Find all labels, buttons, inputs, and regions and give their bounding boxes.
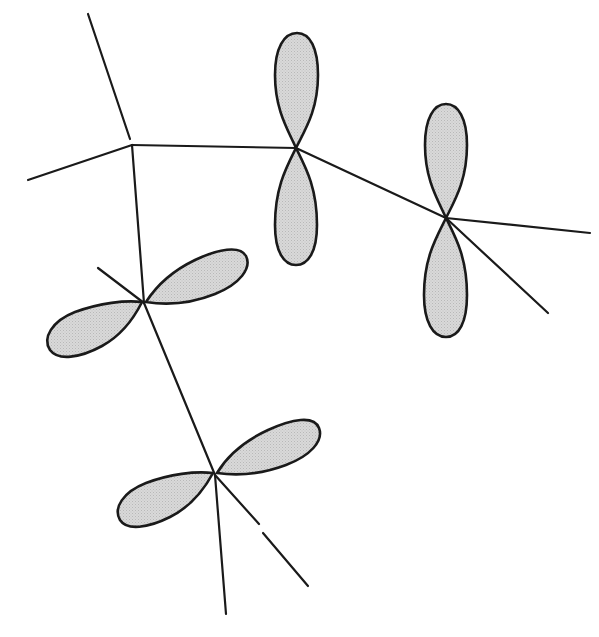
orbital-lobe-b-bottom [275, 148, 317, 265]
substituent-e-down [215, 475, 226, 614]
orbital-lobe-e-lower [118, 472, 213, 526]
p-orbital-diagram [0, 0, 599, 637]
bond-a-d [132, 145, 144, 303]
bond-d-e [144, 303, 215, 475]
substituent-d-upleft [98, 268, 144, 303]
substituent-a-up [88, 14, 130, 139]
orbital-lobe-b-top [275, 33, 318, 148]
p-orbital-d [47, 249, 247, 356]
orbital-lobe-e-upper [217, 420, 320, 474]
substituent-e-downright-a [215, 475, 259, 524]
orbital-lobe-d-upper [146, 249, 248, 303]
orbital-lobe-c-bottom [424, 218, 467, 337]
substituent-e-downright-b [263, 533, 308, 586]
substituent-c-right [446, 218, 590, 233]
p-orbital-b [275, 33, 318, 265]
substituent-a-left [28, 145, 132, 180]
bond-a-b [132, 145, 296, 148]
bond-b-c [296, 148, 446, 218]
orbital-lobe-d-lower [47, 301, 142, 356]
orbital-lobe-c-top [425, 104, 467, 218]
